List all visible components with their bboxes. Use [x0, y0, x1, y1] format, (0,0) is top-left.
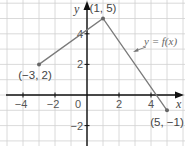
function-label: y = f(x) [143, 35, 177, 48]
x-tick-label: 2 [116, 98, 122, 110]
function-graph: x y −4−2024−224 (−3, 2)(1, 5)(5, −1) y =… [0, 0, 185, 146]
y-axis-label: y [73, 2, 80, 16]
point-label: (5, −1) [150, 116, 184, 128]
x-tick-label: −4 [15, 98, 28, 110]
function-label-arrowhead-icon [133, 48, 139, 52]
x-tick-label: −2 [47, 98, 60, 110]
x-axis-label: x [175, 97, 182, 111]
data-point [101, 17, 105, 21]
x-tick-label: 0 [75, 98, 81, 110]
y-tick-label: −2 [70, 120, 83, 132]
x-tick-label: 4 [148, 98, 154, 110]
data-point [37, 62, 41, 66]
data-point [165, 108, 169, 112]
point-label: (−3, 2) [18, 69, 52, 81]
point-label: (1, 5) [90, 2, 117, 14]
y-tick-label: 2 [77, 58, 83, 70]
